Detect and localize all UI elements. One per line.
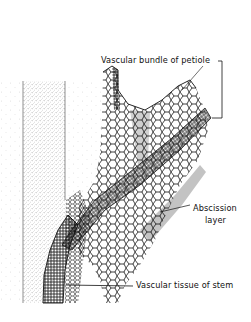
label-vascular-tissue-stem: Vascular tissue of stem <box>136 281 233 289</box>
label-abscission-layer: layer <box>205 216 226 224</box>
stem-cortex-left <box>0 81 23 303</box>
abscission-diagram <box>0 0 251 322</box>
petiole-label-bracket <box>212 61 222 118</box>
label-vascular-bundle-petiole: Vascular bundle of petiole <box>101 56 210 64</box>
label-abscission: Abscission <box>193 204 237 212</box>
